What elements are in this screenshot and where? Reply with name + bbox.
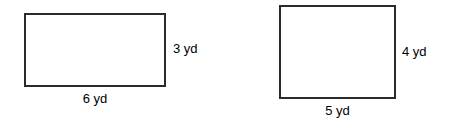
rectangle-1-width-label: 6 yd — [24, 92, 166, 106]
rectangle-outline-2 — [279, 5, 396, 99]
rectangle-1-height-label: 3 yd — [173, 42, 198, 56]
rectangle-outline-1 — [24, 13, 166, 87]
rectangle-2-height-label: 4 yd — [402, 45, 427, 59]
geometry-figure-canvas: 3 yd 6 yd 4 yd 5 yd — [0, 0, 455, 127]
rectangle-2-width-label: 5 yd — [279, 104, 396, 118]
figure-rectangle-1: 3 yd 6 yd — [0, 0, 228, 127]
figure-rectangle-2: 4 yd 5 yd — [228, 0, 455, 127]
